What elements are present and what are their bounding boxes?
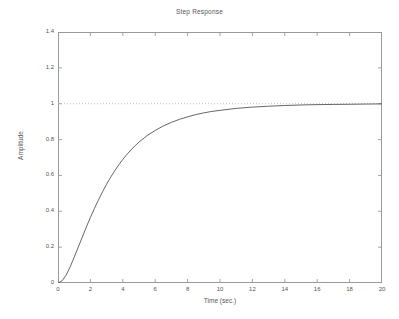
step-response-figure: Step Response 00.20.40.60.811.21.4 02468…	[0, 0, 399, 319]
y-tick-label: 1.4	[28, 28, 54, 34]
axes-box	[59, 33, 382, 283]
x-tick-label: 16	[305, 286, 329, 292]
x-tick-label: 12	[240, 286, 264, 292]
y-axis-label: Amplitude	[17, 116, 24, 176]
x-tick-label: 8	[176, 286, 200, 292]
plot-area: 00.20.40.60.811.21.4 02468101214161820	[58, 32, 382, 283]
x-tick-label: 4	[111, 286, 135, 292]
y-axis-ticks	[58, 32, 382, 283]
plot-canvas	[58, 32, 382, 283]
x-axis-label: Time (sec.)	[58, 297, 382, 304]
y-tick-label: 1.2	[28, 64, 54, 70]
y-tick-label: 0.8	[28, 136, 54, 142]
chart-title: Step Response	[0, 8, 399, 15]
y-tick-label: 0.6	[28, 171, 54, 177]
x-tick-label: 0	[46, 286, 70, 292]
x-tick-label: 10	[208, 286, 232, 292]
y-tick-label: 0	[28, 279, 54, 285]
y-tick-label: 0.4	[28, 207, 54, 213]
y-tick-label: 0.2	[28, 243, 54, 249]
y-tick-label: 1	[28, 100, 54, 106]
x-axis-ticks	[58, 32, 382, 283]
x-tick-label: 14	[273, 286, 297, 292]
x-tick-label: 18	[338, 286, 362, 292]
x-tick-label: 20	[370, 286, 394, 292]
x-tick-label: 6	[143, 286, 167, 292]
step-response-curve	[58, 104, 382, 283]
x-tick-label: 2	[78, 286, 102, 292]
